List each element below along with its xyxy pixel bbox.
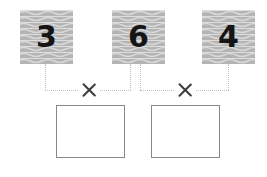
connector-tile2-right-vertical [140, 64, 141, 90]
connector-tile2-left-vertical [130, 64, 131, 90]
multiplication-sign-1 [80, 81, 98, 99]
number-tile-2-value: 6 [128, 22, 149, 52]
connector-tile3-horizontal [196, 90, 229, 91]
connector-tile1-horizontal [45, 90, 78, 91]
connector-tile2-left-horizontal [100, 90, 131, 91]
number-tile-1-value: 3 [36, 22, 57, 52]
number-tile-3[interactable]: 4 [202, 10, 255, 64]
answer-box-2[interactable] [151, 105, 220, 158]
multiplication-worksheet: 3 6 [0, 0, 267, 177]
answer-box-1[interactable] [56, 105, 125, 158]
number-tile-1[interactable]: 3 [20, 10, 73, 64]
connector-tile2-right-horizontal [140, 90, 174, 91]
number-tile-3-value: 4 [218, 22, 239, 52]
number-tile-2[interactable]: 6 [112, 10, 165, 64]
connector-tile1-vertical [45, 64, 46, 90]
connector-tile3-vertical [228, 64, 229, 90]
multiplication-sign-2 [176, 81, 194, 99]
